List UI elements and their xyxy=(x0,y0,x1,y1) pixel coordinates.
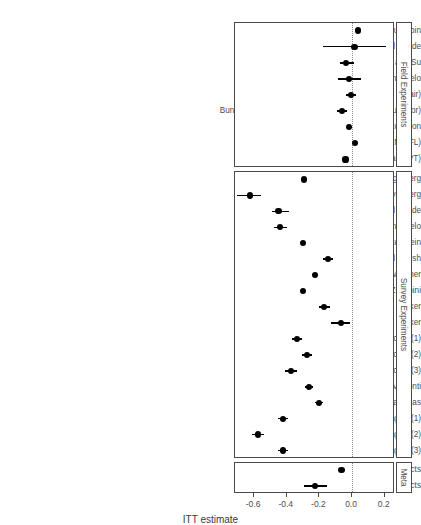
estimate-point xyxy=(352,140,358,146)
estimate-point xyxy=(300,288,306,294)
estimate-point xyxy=(355,27,361,33)
estimate-point xyxy=(325,256,331,262)
x-axis-tick xyxy=(351,493,352,497)
estimate-point xyxy=(338,467,344,473)
estimate-point xyxy=(280,447,286,453)
estimate-point xyxy=(348,92,354,98)
estimate-point xyxy=(304,352,310,358)
strip-label-text: Meta xyxy=(399,468,408,486)
panel-strip-label: Meta xyxy=(396,462,412,493)
estimate-point xyxy=(301,176,307,182)
x-axis-tick xyxy=(384,493,385,497)
estimate-point xyxy=(312,272,318,278)
estimate-point xyxy=(316,400,322,406)
estimate-point xyxy=(321,304,327,310)
strip-label-text: Survey Experiments xyxy=(399,277,408,350)
zero-reference-line xyxy=(352,172,353,457)
panel-1 xyxy=(234,22,394,167)
estimate-point xyxy=(339,108,345,114)
x-axis-tick-label: -0.2 xyxy=(311,499,326,509)
panel-strip-label: Field Experiments xyxy=(396,22,412,167)
estimate-point xyxy=(338,320,344,326)
x-axis-tick-label: -0.4 xyxy=(278,499,293,509)
estimate-point xyxy=(300,240,306,246)
panel-strip-label: Survey Experiments xyxy=(396,171,412,458)
panel-plot-area xyxy=(235,463,393,492)
estimate-point xyxy=(280,416,286,422)
estimate-point xyxy=(342,156,348,162)
estimate-point xyxy=(294,336,300,342)
estimate-point xyxy=(312,483,318,489)
panel-2 xyxy=(234,171,394,458)
estimate-point xyxy=(277,224,283,230)
estimate-point xyxy=(255,431,261,437)
estimate-point xyxy=(346,76,352,82)
x-axis-tick-label: 0.0 xyxy=(345,499,357,509)
x-axis-tick xyxy=(286,493,287,497)
estimate-point xyxy=(288,368,294,374)
estimate-point xyxy=(346,124,352,130)
panel-plot-area xyxy=(235,172,393,457)
estimate-point xyxy=(343,60,349,66)
panel-3 xyxy=(234,462,394,493)
zero-reference-line xyxy=(352,463,353,492)
estimate-point xyxy=(306,384,312,390)
x-axis-tick xyxy=(253,493,254,497)
estimate-point xyxy=(351,44,357,50)
x-axis-tick-label: -0.6 xyxy=(246,499,261,509)
panel-plot-area xyxy=(235,23,393,166)
estimate-point xyxy=(275,208,281,214)
x-axis-tick xyxy=(318,493,319,497)
x-axis-title: ITT estimate xyxy=(0,514,421,525)
estimate-point xyxy=(247,192,253,198)
x-axis-tick-label: 0.2 xyxy=(378,499,390,509)
strip-label-text: Field Experiments xyxy=(399,61,408,127)
